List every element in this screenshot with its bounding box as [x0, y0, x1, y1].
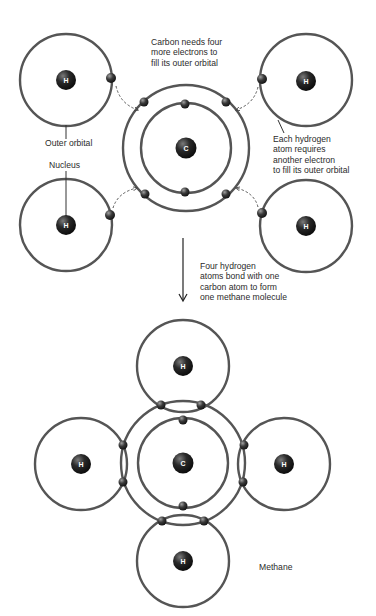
hydrogen-requires-pointer: [278, 120, 284, 133]
outer-orbital-label: Outer orbital: [45, 138, 92, 148]
hydrogen-symbol: H: [63, 77, 68, 84]
methane-carbon-nucleus: C: [173, 453, 194, 474]
hydrogen-requires-annotation: Each hydrogen atom requires another elec…: [273, 134, 349, 176]
hydrogen-nucleus-top-right: H: [296, 71, 316, 91]
inner-electron-top: [179, 416, 188, 425]
transition-caption: Four hydrogen atoms bond with one carbon…: [200, 261, 287, 303]
dashed-arrow-top-left: [116, 86, 138, 110]
down-arrow-icon: [179, 238, 187, 301]
carbon-symbol: C: [180, 460, 185, 467]
shared-electron-top-1: [157, 401, 166, 410]
electron-carbon-inner-1: [181, 100, 190, 109]
electron-hydrogen-top-right: [257, 74, 267, 84]
hydrogen-nucleus-bottom-right: H: [296, 216, 316, 236]
electron-carbon-inner-2: [181, 188, 190, 197]
nucleus-label: Nucleus: [49, 160, 80, 170]
shared-electron-bottom-1: [158, 517, 167, 526]
carbon-symbol: C: [183, 145, 188, 152]
electron-hydrogen-bottom-left: [105, 210, 115, 220]
dashed-arrow-bottom-right: [236, 188, 258, 207]
hydrogen-symbol: H: [281, 461, 286, 468]
hydrogen-symbol: H: [180, 558, 185, 565]
hydrogen-symbol: H: [303, 78, 308, 85]
hydrogen-symbol: H: [303, 223, 308, 230]
methane-hydrogen-nucleus-left: H: [71, 454, 91, 474]
hydrogen-symbol: H: [63, 222, 68, 229]
electron-carbon-outer-1: [140, 98, 149, 107]
shared-electron-top-2: [197, 401, 206, 410]
shared-electron-bottom-2: [200, 517, 209, 526]
hydrogen-symbol: H: [78, 461, 83, 468]
pointer-lines: [66, 120, 284, 219]
methane-hydrogen-nucleus-right: H: [274, 454, 294, 474]
methane-label: Methane: [259, 562, 292, 572]
carbon-needs-annotation: Carbon needs four more electrons to fill…: [151, 37, 222, 68]
hydrogen-nucleus-top-left: H: [56, 70, 76, 90]
inner-electron-bottom: [179, 502, 188, 511]
electron-carbon-outer-2: [222, 98, 231, 107]
carbon-nucleus: C: [176, 138, 197, 159]
methane-formation-diagram: H H H H C: [0, 0, 376, 616]
shared-electron-right-2: [239, 478, 248, 487]
electron-carbon-outer-3: [141, 190, 150, 199]
hydrogen-nucleus-bottom-left: H: [56, 215, 76, 235]
shared-electron-left-2: [119, 478, 128, 487]
hydrogen-symbol: H: [180, 363, 185, 370]
shared-electron-right-1: [240, 441, 249, 450]
dashed-arrow-top-right: [236, 87, 258, 110]
electron-hydrogen-top-left: [106, 73, 116, 83]
dashed-arrow-bottom-left: [113, 188, 137, 208]
shared-electron-left-1: [119, 441, 128, 450]
electron-hydrogen-bottom-right: [257, 208, 267, 218]
methane-hydrogen-nucleus-top: H: [173, 356, 193, 376]
electron-carbon-outer-4: [222, 190, 231, 199]
methane-hydrogen-nucleus-bottom: H: [173, 551, 193, 571]
